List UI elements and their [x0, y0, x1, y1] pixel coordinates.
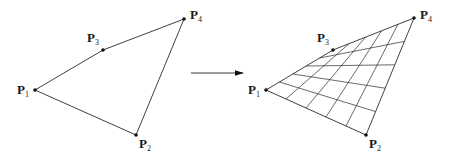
- right-grid-patch: P1 P2 P3 P4: [248, 7, 432, 153]
- left-point-p4: [182, 17, 186, 21]
- right-label-p1: P1: [248, 82, 260, 99]
- right-point-p3: [331, 48, 335, 52]
- left-quadrilateral: P1 P2 P3 P4: [17, 7, 202, 153]
- left-point-p2: [134, 133, 138, 137]
- right-point-p4: [412, 16, 416, 20]
- left-point-p1: [33, 88, 37, 92]
- grid-line-v: [306, 37, 365, 108]
- grid-line-u: [306, 65, 395, 66]
- grid-line-v: [286, 44, 349, 99]
- left-label-p4: P4: [190, 7, 202, 24]
- left-label-p2: P2: [139, 136, 151, 153]
- left-point-p3: [101, 48, 105, 52]
- right-label-p4: P4: [420, 7, 432, 24]
- left-edges: [35, 19, 184, 135]
- right-label-p2: P2: [369, 136, 381, 153]
- right-point-p1: [264, 88, 268, 92]
- right-point-p2: [364, 133, 368, 137]
- right-label-p3: P3: [317, 30, 329, 47]
- left-label-p1: P1: [17, 82, 29, 99]
- left-label-p3: P3: [87, 30, 99, 47]
- mapping-diagram: P1 P2 P3 P4 P1 P2 P3 P4: [0, 0, 450, 161]
- parametric-grid: [279, 24, 404, 126]
